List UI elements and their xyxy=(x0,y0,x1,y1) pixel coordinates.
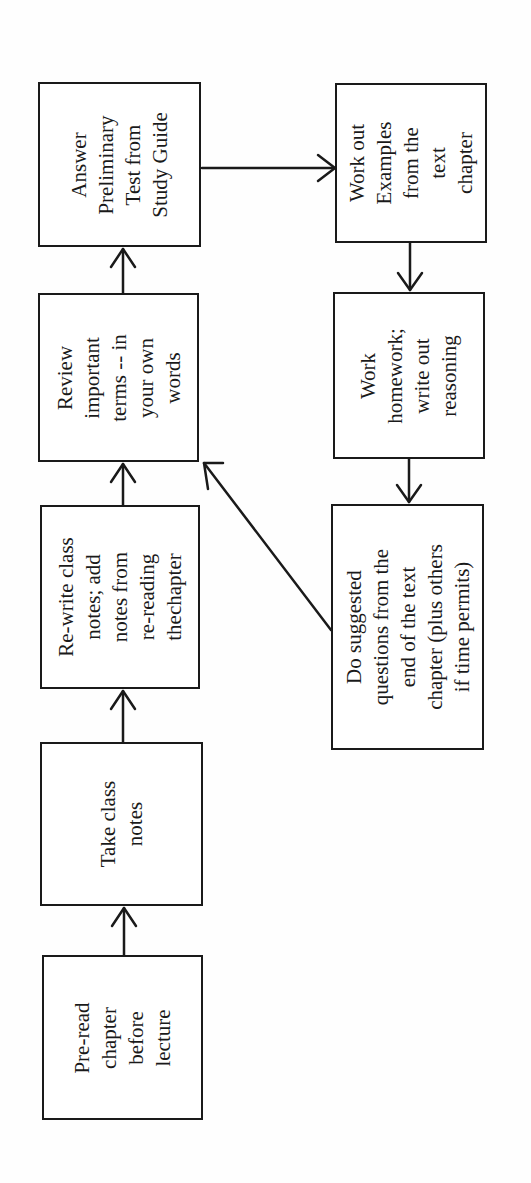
node-review-important-terms: Review important terms -- in your own wo… xyxy=(38,293,199,462)
node-answer-preliminary-test: Answer Preliminary Test from Study Guide xyxy=(38,82,201,247)
arrow-take-notes-to-rewrite xyxy=(111,691,135,742)
arrow-pre-read-to-take-notes xyxy=(112,908,136,955)
arrow-rewrite-to-review xyxy=(111,464,135,505)
node-rewrite-class-notes: Re-write class notes; add notes from re-… xyxy=(40,505,200,689)
arrow-review-to-preliminary-test xyxy=(111,249,135,293)
node-work-out-examples: Work out Examples from the text chapter xyxy=(335,83,487,243)
node-label: Take class notes xyxy=(95,781,149,868)
node-label: Work out Examples from the text chapter xyxy=(344,122,479,205)
node-label: Work homework; write out reasoning xyxy=(355,328,463,424)
node-label: Review important terms -- in your own wo… xyxy=(51,334,186,421)
node-work-homework: Work homework; write out reasoning xyxy=(333,292,485,459)
node-label: Pre-read chapter before lecture xyxy=(69,1002,177,1073)
arrow-preliminary-test-to-examples xyxy=(202,155,335,181)
arrow-examples-to-homework xyxy=(398,243,422,290)
node-do-suggested-questions: Do suggested questions from the end of t… xyxy=(331,504,484,750)
node-label: Do suggested questions from the end of t… xyxy=(340,544,475,710)
arrow-suggested-questions-to-review xyxy=(204,463,331,630)
arrow-homework-to-suggested-questions xyxy=(397,459,421,502)
flowchart-canvas: Pre-read chapter before lecture Take cla… xyxy=(0,0,531,1183)
node-take-class-notes: Take class notes xyxy=(40,742,203,906)
node-pre-read: Pre-read chapter before lecture xyxy=(42,955,203,1120)
node-label: Answer Preliminary Test from Study Guide xyxy=(66,112,174,218)
node-label: Re-write class notes; add notes from re-… xyxy=(53,537,188,657)
